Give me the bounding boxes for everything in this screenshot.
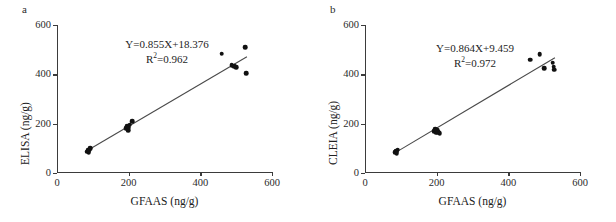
- panel-b-label: b: [330, 4, 336, 15]
- panel-b-y-tick-label: 0: [354, 168, 359, 179]
- panel-b-y-axis-title: CLEIA (ng/g): [327, 101, 339, 165]
- panel-b-data-point: [394, 151, 399, 156]
- panel-a-x-tick-label: 0: [54, 178, 59, 189]
- panel-b-r-value: =0.972: [465, 57, 496, 69]
- panel-a-plot-area: 02004006000200400600 Y=0.855X+18.376 R2=…: [57, 25, 272, 173]
- panel-a-x-tick-label: 600: [264, 178, 280, 189]
- panel-b-x-tick-label: 0: [362, 178, 367, 189]
- panel-a-data-point: [130, 119, 135, 124]
- panel-b-data-point: [437, 131, 442, 136]
- panel-a-x-axis-title: GFAAS (ng/g): [57, 195, 272, 207]
- panel-a-y-tick-label: 600: [35, 20, 51, 31]
- panel-b-equation: Y=0.864X+9.459: [405, 41, 545, 56]
- panel-a: a 02004006000200400600 Y=0.855X+18.376 R…: [0, 0, 308, 222]
- panel-b-data-point: [552, 68, 557, 73]
- panel-a-data-point: [243, 45, 248, 50]
- panel-a-r-value: =0.962: [157, 53, 188, 65]
- panel-b-x-tick-label: 200: [429, 178, 445, 189]
- panel-a-annotation: Y=0.855X+18.376 R2=0.962: [97, 37, 237, 67]
- panel-b-y-tick: [361, 173, 365, 174]
- panel-b: b 02004006000200400600 Y=0.864X+9.459 R2…: [308, 0, 616, 222]
- panel-a-y-tick-label: 200: [35, 118, 51, 129]
- panel-a-y-tick-label: 0: [46, 168, 51, 179]
- panel-a-y-tick: [53, 173, 57, 174]
- panel-b-x-axis-title: GFAAS (ng/g): [365, 195, 580, 207]
- panel-a-x-tick-label: 200: [121, 178, 137, 189]
- figure-container: a 02004006000200400600 Y=0.855X+18.376 R…: [0, 0, 616, 222]
- panel-a-label: a: [22, 4, 27, 15]
- panel-b-y-tick-label: 200: [343, 118, 359, 129]
- panel-b-x-tick-label: 400: [500, 178, 516, 189]
- panel-a-x-tick-label: 400: [192, 178, 208, 189]
- panel-a-data-point: [86, 149, 91, 154]
- panel-b-x-tick-label: 600: [572, 178, 588, 189]
- panel-b-fit-segment: [394, 58, 555, 154]
- panel-a-y-axis-title: ELISA (ng/g): [19, 102, 31, 165]
- panel-a-fit-segment: [86, 57, 247, 152]
- panel-b-plot-area: 02004006000200400600 Y=0.864X+9.459 R2=0…: [365, 25, 580, 173]
- panel-a-r-squared: R2=0.962: [97, 52, 237, 67]
- panel-b-y-tick-label: 600: [343, 20, 359, 31]
- panel-a-data-point: [244, 71, 249, 76]
- panel-a-y-tick-label: 400: [35, 69, 51, 80]
- panel-a-equation: Y=0.855X+18.376: [97, 37, 237, 52]
- panel-b-annotation: Y=0.864X+9.459 R2=0.972: [405, 41, 545, 71]
- panel-b-y-tick-label: 400: [343, 69, 359, 80]
- panel-a-x-tick: [272, 172, 273, 176]
- panel-b-r-squared: R2=0.972: [405, 56, 545, 71]
- panel-b-x-tick: [580, 172, 581, 176]
